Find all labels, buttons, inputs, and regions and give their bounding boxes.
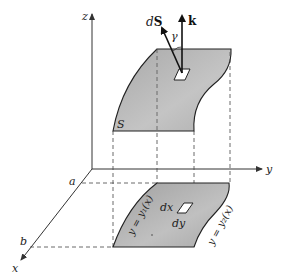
surface-S (113, 49, 231, 131)
a-bound-label: a (69, 175, 76, 188)
b-bound-label: b (20, 235, 27, 248)
gamma-label: γ (171, 30, 178, 43)
surface-label: S (117, 118, 125, 131)
dy-label: dy (172, 217, 186, 230)
x-axis-label: x (12, 262, 19, 275)
k-label: k (188, 14, 197, 28)
surface-integral-diagram: z y x a b S dS k γ dx dy y = y₁(x) y = y… (0, 0, 284, 280)
dx-label: dx (160, 201, 174, 214)
dS-label: dS (146, 15, 162, 29)
y-axis-label: y (265, 163, 273, 176)
x-axis (21, 169, 92, 260)
z-axis-label: z (81, 10, 88, 23)
